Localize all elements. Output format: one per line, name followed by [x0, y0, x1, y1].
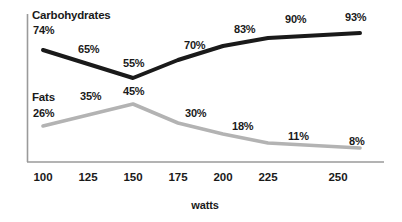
x-tick-175: 175 [158, 172, 198, 184]
data-label-fat-100: 26% [33, 108, 54, 119]
data-label-carb-125: 65% [78, 44, 99, 55]
x-tick-225: 225 [248, 172, 288, 184]
series-label-carbohydrates: Carbohydrates [32, 10, 111, 22]
data-label-carb-175: 70% [184, 40, 205, 51]
data-label-fat-200: 18% [232, 121, 253, 132]
data-label-fat-225: 11% [288, 131, 309, 142]
x-tick-250: 250 [318, 172, 358, 184]
data-label-fat-250: 8% [349, 136, 365, 147]
data-label-carb-200: 83% [234, 24, 255, 35]
data-label-fat-125: 35% [80, 91, 101, 102]
series-label-fats: Fats [32, 92, 55, 104]
data-label-carb-100: 74% [33, 25, 54, 36]
data-label-carb-150: 55% [123, 58, 144, 69]
x-tick-200: 200 [203, 172, 243, 184]
data-label-fat-175: 30% [185, 108, 206, 119]
data-label-carb-225: 90% [285, 14, 306, 25]
x-tick-150: 150 [113, 172, 153, 184]
x-tick-125: 125 [68, 172, 108, 184]
x-tick-100: 100 [23, 172, 63, 184]
data-label-carb-250: 93% [345, 12, 366, 23]
line-chart: Carbohydrates Fats 74% 65% 55% 70% 83% 9… [0, 0, 402, 222]
data-label-fat-150: 45% [123, 86, 144, 97]
x-axis-title: watts [160, 200, 250, 211]
